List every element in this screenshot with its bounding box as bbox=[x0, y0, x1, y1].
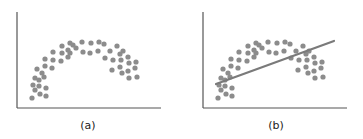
data-point bbox=[58, 58, 63, 63]
data-point bbox=[50, 49, 55, 54]
data-point bbox=[32, 87, 37, 92]
data-point bbox=[96, 39, 101, 44]
data-point bbox=[134, 74, 139, 79]
data-point bbox=[49, 65, 54, 70]
data-point bbox=[119, 70, 124, 75]
data-point bbox=[79, 39, 84, 44]
data-point bbox=[304, 57, 309, 62]
data-point bbox=[59, 50, 64, 55]
data-point bbox=[305, 70, 310, 75]
data-point bbox=[65, 47, 70, 52]
points-b bbox=[215, 39, 325, 100]
data-point bbox=[312, 60, 317, 65]
data-point bbox=[125, 54, 130, 59]
data-point bbox=[228, 63, 233, 68]
data-point bbox=[110, 57, 115, 62]
data-point bbox=[312, 75, 317, 80]
data-point bbox=[39, 70, 44, 75]
data-point bbox=[218, 87, 223, 92]
data-point bbox=[282, 39, 287, 44]
data-point bbox=[101, 41, 106, 46]
data-point bbox=[235, 65, 240, 70]
data-point bbox=[118, 57, 123, 62]
data-point bbox=[109, 67, 114, 72]
data-point bbox=[244, 58, 249, 63]
data-point bbox=[236, 49, 241, 54]
data-point bbox=[42, 63, 47, 68]
data-point bbox=[303, 64, 308, 69]
data-point bbox=[259, 45, 264, 50]
data-point bbox=[296, 57, 301, 62]
data-point bbox=[132, 65, 137, 70]
data-point bbox=[300, 43, 305, 48]
data-point bbox=[225, 70, 230, 75]
data-point bbox=[229, 85, 234, 90]
data-point bbox=[34, 66, 39, 71]
data-point bbox=[117, 64, 122, 69]
data-point bbox=[281, 48, 286, 53]
data-point bbox=[114, 43, 119, 48]
caption-a: (a) bbox=[68, 119, 108, 132]
data-point bbox=[266, 49, 271, 54]
data-point bbox=[228, 56, 233, 61]
data-point bbox=[265, 39, 270, 44]
data-point bbox=[36, 83, 41, 88]
points-a bbox=[29, 39, 139, 100]
data-point bbox=[287, 41, 292, 46]
data-point bbox=[43, 85, 48, 90]
data-point bbox=[251, 47, 256, 52]
plot-b bbox=[203, 12, 347, 108]
data-point bbox=[126, 75, 131, 80]
data-point bbox=[274, 40, 279, 45]
data-point bbox=[37, 91, 42, 96]
data-point bbox=[87, 50, 92, 55]
data-point bbox=[295, 67, 300, 72]
data-point bbox=[59, 43, 64, 48]
data-point bbox=[95, 48, 100, 53]
data-point bbox=[222, 83, 227, 88]
data-point bbox=[30, 82, 35, 87]
data-point bbox=[43, 93, 48, 98]
plot-a bbox=[17, 12, 161, 108]
scatter-plots bbox=[0, 0, 363, 139]
data-point bbox=[125, 68, 130, 73]
data-point bbox=[107, 48, 112, 53]
data-point bbox=[273, 50, 278, 55]
data-point bbox=[29, 95, 34, 100]
data-point bbox=[133, 59, 138, 64]
data-point bbox=[293, 48, 298, 53]
data-point bbox=[73, 45, 78, 50]
data-point bbox=[102, 55, 107, 60]
data-point bbox=[36, 77, 41, 82]
data-point bbox=[126, 60, 131, 65]
data-point bbox=[320, 74, 325, 79]
data-point bbox=[236, 57, 241, 62]
data-point bbox=[120, 48, 125, 53]
data-point bbox=[311, 68, 316, 73]
data-point bbox=[50, 57, 55, 62]
data-point bbox=[311, 54, 316, 59]
caption-b: (b) bbox=[256, 119, 296, 132]
data-point bbox=[42, 56, 47, 61]
data-point bbox=[80, 49, 85, 54]
data-point bbox=[223, 91, 228, 96]
data-point bbox=[318, 65, 323, 70]
data-point bbox=[215, 95, 220, 100]
data-point bbox=[245, 50, 250, 55]
data-point bbox=[245, 43, 250, 48]
data-point bbox=[88, 40, 93, 45]
data-point bbox=[220, 66, 225, 71]
data-point bbox=[229, 93, 234, 98]
data-point bbox=[319, 59, 324, 64]
